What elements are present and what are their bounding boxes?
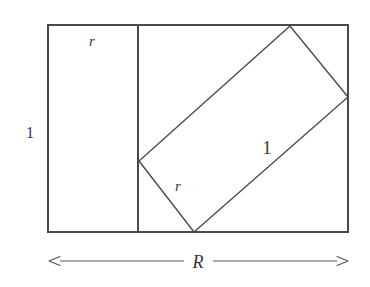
label-total-width: R bbox=[193, 253, 204, 271]
figure-canvas bbox=[0, 0, 370, 287]
label-tilted-long-side: 1 bbox=[263, 139, 272, 157]
label-tilted-short-side: r bbox=[175, 179, 181, 194]
tilted-rectangle bbox=[139, 26, 348, 232]
label-left-height: 1 bbox=[26, 125, 34, 141]
dimension-arrow-left-head bbox=[49, 257, 60, 266]
outer-rectangle bbox=[48, 25, 348, 232]
geometry-figure: r 1 1 r R bbox=[0, 0, 370, 287]
label-left-strip-width: r bbox=[89, 34, 95, 49]
dimension-arrow-right-head bbox=[337, 257, 348, 266]
